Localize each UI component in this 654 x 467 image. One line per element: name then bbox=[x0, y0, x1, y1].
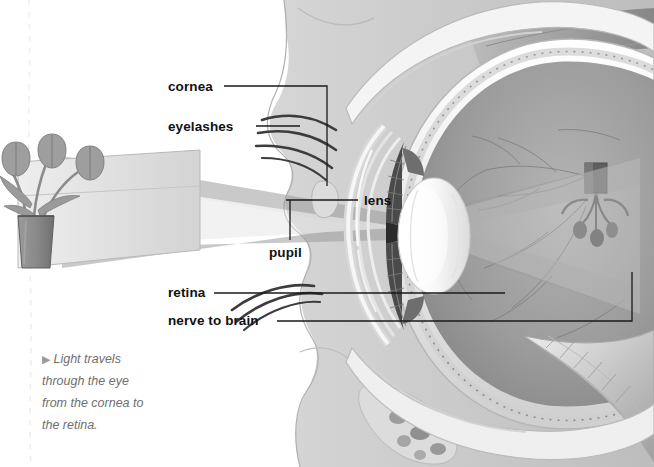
tulips-in-vase bbox=[0, 134, 200, 268]
label-cornea: cornea bbox=[168, 80, 213, 94]
caption-line-2: through the eye bbox=[42, 374, 129, 388]
lens bbox=[398, 178, 470, 294]
label-lens: lens bbox=[364, 194, 391, 208]
label-pupil: pupil bbox=[269, 246, 302, 260]
caption-line-1: Light travels bbox=[53, 352, 120, 366]
caption-line-3: from the cornea to bbox=[42, 396, 143, 410]
caption-bullet-icon: ▶ bbox=[42, 353, 50, 365]
label-nerve-to-brain: nerve to brain bbox=[168, 314, 259, 328]
figure-caption: ▶ Light travels through the eye from the… bbox=[42, 348, 217, 436]
eye-diagram-figure: cornea eyelashes lens pupil retina nerve… bbox=[0, 0, 654, 467]
label-eyelashes: eyelashes bbox=[168, 120, 233, 134]
caption-line-4: the retina. bbox=[42, 418, 98, 432]
label-retina: retina bbox=[168, 286, 205, 300]
